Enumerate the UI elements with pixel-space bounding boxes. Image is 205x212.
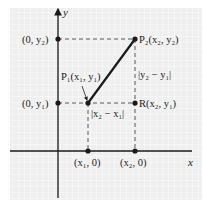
label-vertical-distance: |y₂ − y₁| <box>138 69 171 80</box>
point-x2-0 <box>132 148 137 153</box>
label-r: R(x₂, y₁) <box>139 98 177 110</box>
point-0-y1 <box>55 100 60 105</box>
label-p1: P₁(x₁, y₁) <box>61 71 101 83</box>
label-0-y2: (0, y₂) <box>22 34 49 46</box>
y-axis-label: y <box>62 6 68 18</box>
point-p2 <box>132 36 137 41</box>
x-axis-label: x <box>187 156 193 168</box>
point-0-y2 <box>55 36 60 41</box>
point-p1 <box>85 100 90 105</box>
distance-formula-diagram: y x (0, y₂) (0, y₁) P₂(x₂, y₂) P₁(x₁, y₁… <box>0 0 205 212</box>
point-r <box>132 100 137 105</box>
label-horizontal-distance: |x₂ − x₁| <box>91 108 124 119</box>
label-x2-0: (x₂, 0) <box>120 157 147 169</box>
point-x1-0 <box>85 148 90 153</box>
label-x1-0: (x₁, 0) <box>74 157 101 169</box>
label-0-y1: (0, y₁) <box>22 98 49 110</box>
label-p2: P₂(x₂, y₂) <box>139 34 179 46</box>
